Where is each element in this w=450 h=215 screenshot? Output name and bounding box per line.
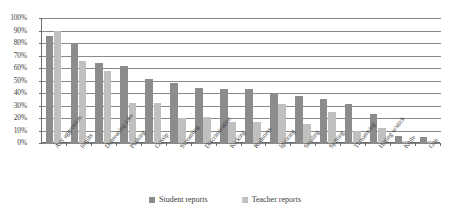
bar-group: [290, 18, 315, 143]
bar: [54, 31, 62, 144]
bar-chart: 100%90%80%70%60%50%40%30%20%10%0% Any ag…: [0, 0, 450, 215]
x-axis-labels: Any aggressionInsultsDemeaning jokePushi…: [41, 145, 440, 193]
bar: [46, 36, 54, 144]
bar-group: [241, 18, 266, 143]
bar: [420, 137, 428, 143]
legend-label: Student reports: [159, 195, 208, 204]
bar: [295, 96, 303, 144]
legend-swatch: [149, 197, 155, 203]
bar-group: [41, 18, 66, 143]
legend-item: Teacher reports: [242, 195, 301, 204]
legend-swatch: [242, 197, 248, 203]
bars-layer: [41, 18, 440, 143]
bar: [95, 63, 103, 143]
y-axis-tick-label: 10%: [0, 127, 27, 135]
bar: [320, 99, 328, 143]
y-axis-tick-label: 30%: [0, 102, 27, 110]
y-axis-tick-label: 50%: [0, 77, 27, 85]
bar: [345, 104, 353, 143]
y-axis-tick-label: 80%: [0, 39, 27, 47]
bar-group: [415, 18, 440, 143]
y-axis-tick-label: 100%: [0, 14, 27, 22]
y-axis-tick-label: 60%: [0, 64, 27, 72]
y-axis-tick-label: 0%: [0, 139, 27, 147]
bar-group: [141, 18, 166, 143]
bar: [245, 89, 253, 143]
bar-group: [91, 18, 116, 143]
bar-group: [166, 18, 191, 143]
bar: [79, 61, 87, 144]
bar-group: [265, 18, 290, 143]
bar-group: [340, 18, 365, 143]
bar: [104, 71, 112, 144]
legend-label: Teacher reports: [252, 195, 301, 204]
x-axis-tick-mark: [440, 143, 441, 146]
bar: [395, 136, 403, 144]
bar-group: [315, 18, 340, 143]
bar: [170, 83, 178, 143]
legend-item: Student reports: [149, 195, 208, 204]
bar: [195, 88, 203, 143]
bar: [145, 79, 153, 143]
bar: [270, 93, 278, 143]
y-axis-tick-label: 70%: [0, 52, 27, 60]
y-axis-tick-label: 90%: [0, 27, 27, 35]
y-axis-tick-mark: [39, 143, 42, 144]
y-axis-tick-label: 20%: [0, 114, 27, 122]
y-axis-tick-label: 40%: [0, 89, 27, 97]
chart-legend: Student reportsTeacher reports: [0, 195, 450, 204]
